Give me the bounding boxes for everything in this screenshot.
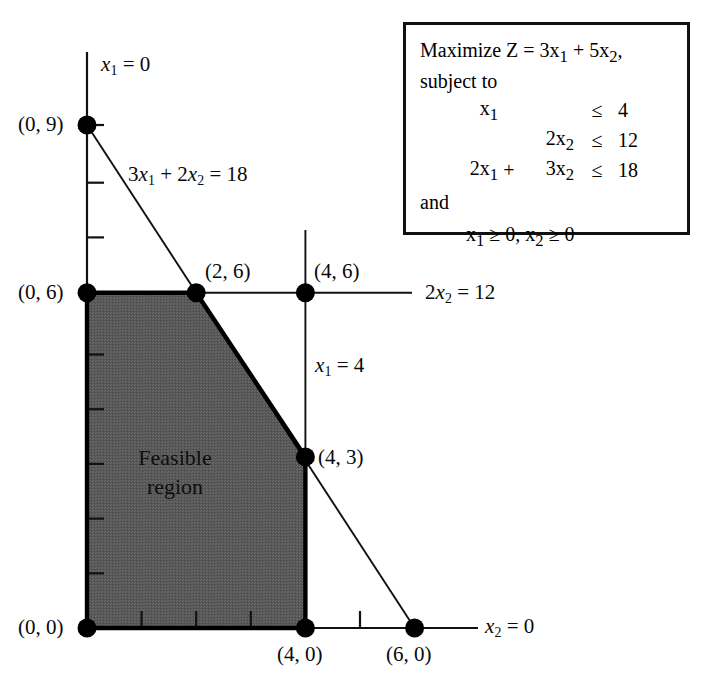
point-marker-4-3 bbox=[296, 447, 315, 466]
lp-model-box: Maximize Z = 3x1 + 5x2, subject to x1 ≤ … bbox=[403, 22, 690, 235]
constraint-3-sub2: 2 bbox=[566, 165, 574, 184]
constraint-1-sub: 1 bbox=[490, 105, 498, 124]
objective-sub1: 1 bbox=[560, 47, 568, 66]
objective-sub2: 2 bbox=[609, 47, 617, 66]
feasible-region-label: Feasible region bbox=[100, 443, 250, 501]
constraint-2-lhs2: 2x2 bbox=[520, 126, 584, 156]
c18-rel: = bbox=[204, 162, 226, 186]
feasible-region-label-line2: region bbox=[100, 472, 250, 501]
nonneg-rel1: ≥ 0, bbox=[484, 223, 525, 245]
c12-rhs: 12 bbox=[474, 280, 495, 304]
axis-label-x1-var: x bbox=[101, 52, 110, 76]
c18-rhs: 18 bbox=[227, 162, 248, 186]
axis-label-x1-rhs: 0 bbox=[140, 52, 151, 76]
point-label-0-0: (0, 0) bbox=[18, 615, 64, 639]
lp-graph-figure: x1 = 0 x2 = 0 3x1 + 2x2 = 18 2x2 = 12 x1… bbox=[0, 0, 706, 679]
objective-var1: x bbox=[550, 39, 560, 61]
point-label-0-6: (0, 6) bbox=[18, 280, 64, 304]
point-label-4-6: (4, 6) bbox=[314, 259, 360, 283]
point-label-4-3: (4, 3) bbox=[318, 445, 364, 469]
objective-eq: = 3 bbox=[518, 39, 549, 61]
constraint-2-coef: 2 bbox=[546, 127, 556, 149]
constraint-3-op: + bbox=[498, 156, 520, 186]
subject-to-line: subject to bbox=[420, 68, 687, 94]
constraint-row-2: 2x2 ≤ 12 bbox=[420, 126, 638, 156]
nonneg-sub2: 2 bbox=[535, 231, 543, 250]
nonneg-var2: x bbox=[525, 223, 535, 245]
constraint-2-lhs1 bbox=[420, 126, 498, 156]
c18-coef2: 2 bbox=[177, 162, 188, 186]
constraint-2-sub: 2 bbox=[566, 135, 574, 154]
constraint-3-relation: ≤ bbox=[584, 156, 610, 186]
constraint-label-2x2-12: 2x2 = 12 bbox=[425, 280, 495, 307]
constraint-3-rhs: 18 bbox=[610, 156, 638, 186]
point-label-4-0: (4, 0) bbox=[277, 642, 323, 666]
axis-label-x2-rel: = bbox=[501, 614, 523, 638]
nonneg-var1: x bbox=[466, 223, 476, 245]
c18-var2: x bbox=[188, 162, 197, 186]
c4-var: x bbox=[315, 353, 324, 377]
c18-var1: x bbox=[139, 162, 148, 186]
c18-plus: + bbox=[155, 162, 177, 186]
constraint-1-relation: ≤ bbox=[584, 96, 610, 126]
lp-model-content: Maximize Z = 3x1 + 5x2, subject to x1 ≤ … bbox=[406, 25, 687, 232]
point-label-2-6: (2, 6) bbox=[205, 259, 251, 283]
point-label-6-0: (6, 0) bbox=[386, 642, 432, 666]
constraint-label-3x1-2x2-18: 3x1 + 2x2 = 18 bbox=[128, 162, 248, 189]
objective-z: Z bbox=[506, 39, 518, 61]
point-marker-0-9 bbox=[78, 116, 97, 135]
c12-coef: 2 bbox=[425, 280, 436, 304]
axis-label-x2-rhs: 0 bbox=[524, 614, 535, 638]
feasible-region-label-line1: Feasible bbox=[100, 443, 250, 472]
constraints-table: x1 ≤ 4 2x2 ≤ 12 bbox=[420, 96, 638, 187]
constraint-label-x1-4: x1 = 4 bbox=[315, 353, 364, 380]
axis-label-x1-equals-0: x1 = 0 bbox=[101, 52, 150, 79]
axis-label-x1-rel: = bbox=[117, 52, 139, 76]
objective-comma: , bbox=[618, 39, 623, 61]
c18-coef1: 3 bbox=[128, 162, 139, 186]
point-marker-6-0 bbox=[405, 619, 424, 638]
nonnegativity-line: x1 ≥ 0, x2 ≥ 0 bbox=[420, 215, 687, 252]
axis-label-x2-var: x bbox=[485, 614, 494, 638]
constraint-3-var2: x bbox=[556, 157, 566, 179]
constraint-3-lhs1: 2x1 bbox=[420, 156, 498, 186]
point-marker-0-0 bbox=[78, 619, 97, 638]
c4-rel: = bbox=[331, 353, 353, 377]
point-marker-0-6 bbox=[78, 283, 97, 302]
point-marker-4-0 bbox=[296, 619, 315, 638]
constraint-3-coef1: 2 bbox=[470, 157, 480, 179]
constraint-1-lhs2 bbox=[520, 96, 584, 126]
objective-function-line: Maximize Z = 3x1 + 5x2, bbox=[420, 37, 687, 68]
constraint-2-relation: ≤ bbox=[584, 126, 610, 156]
constraint-1-lhs1: x1 bbox=[420, 96, 498, 126]
objective-var2: x bbox=[599, 39, 609, 61]
nonneg-rel2: ≥ 0 bbox=[544, 223, 575, 245]
c12-rel: = bbox=[452, 280, 474, 304]
constraint-2-rhs: 12 bbox=[610, 126, 638, 156]
constraint-3-lhs2: 3x2 bbox=[520, 156, 584, 186]
constraint-3-sub1: 1 bbox=[490, 165, 498, 184]
objective-prefix: Maximize bbox=[420, 39, 506, 61]
constraint-1-rhs: 4 bbox=[610, 96, 638, 126]
constraint-3-var1: x bbox=[480, 157, 490, 179]
constraint-1-op bbox=[498, 96, 520, 126]
constraint-row-3: 2x1 + 3x2 ≤ 18 bbox=[420, 156, 638, 186]
constraint-2-op bbox=[498, 126, 520, 156]
point-label-0-9: (0, 9) bbox=[18, 112, 64, 136]
constraint-row-1: x1 ≤ 4 bbox=[420, 96, 638, 126]
c12-var: x bbox=[436, 280, 445, 304]
point-marker-2-6 bbox=[187, 283, 206, 302]
c4-rhs: 4 bbox=[354, 353, 365, 377]
and-line: and bbox=[420, 187, 687, 215]
constraint-1-var: x bbox=[480, 97, 490, 119]
constraint-3-coef2: 3 bbox=[546, 157, 556, 179]
axis-label-x2-equals-0: x2 = 0 bbox=[485, 614, 534, 641]
constraint-2-var: x bbox=[556, 127, 566, 149]
point-marker-4-6 bbox=[296, 283, 315, 302]
c18-sub1: 1 bbox=[148, 173, 155, 188]
c12-sub: 2 bbox=[445, 291, 452, 306]
objective-plus: + 5 bbox=[568, 39, 599, 61]
